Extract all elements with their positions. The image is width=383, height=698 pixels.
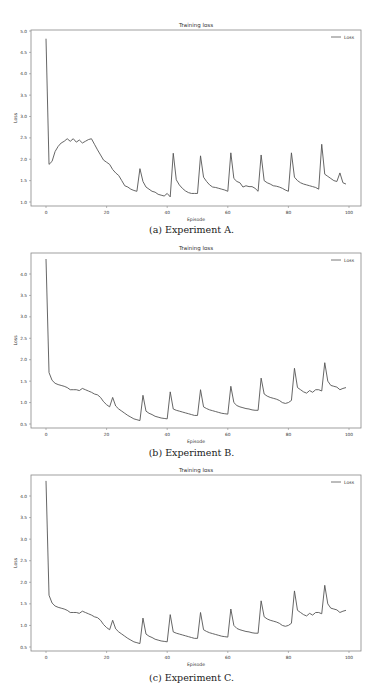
legend-label: Loss <box>344 480 355 485</box>
x-tick-label: 100 <box>345 655 353 660</box>
chart-title: Training loss <box>178 467 213 474</box>
y-tick-label: 3.0 <box>20 537 27 542</box>
x-axis-label: Episode <box>187 662 205 667</box>
x-tick-label: 60 <box>225 655 231 660</box>
y-tick-label: 1.0 <box>20 623 27 628</box>
caption-c: (c) Experiment C. <box>0 672 383 683</box>
x-tick-label: 80 <box>286 655 292 660</box>
y-tick-label: 1.5 <box>20 601 27 606</box>
x-tick-label: 0 <box>45 655 48 660</box>
y-axis-label: Loss <box>13 557 18 568</box>
chart-c: Training loss0.51.01.52.02.53.03.54.0020… <box>0 0 383 698</box>
y-tick-label: 0.5 <box>20 645 27 650</box>
y-tick-label: 4.0 <box>20 494 27 499</box>
y-tick-label: 2.5 <box>20 558 27 563</box>
x-tick-label: 20 <box>104 655 110 660</box>
x-tick-label: 40 <box>164 655 170 660</box>
y-tick-label: 2.0 <box>20 580 27 585</box>
y-tick-label: 3.5 <box>20 515 27 520</box>
loss-line <box>46 481 346 644</box>
plot-frame <box>31 475 361 651</box>
figure-experiment-c: Training loss0.51.01.52.02.53.03.54.0020… <box>0 0 383 698</box>
